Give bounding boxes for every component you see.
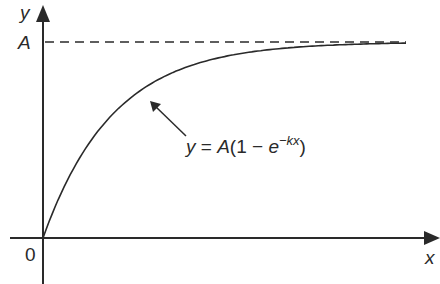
eq-y: y <box>186 136 196 157</box>
annotation-arrow-line <box>154 105 186 136</box>
eq-A: A <box>217 136 230 157</box>
eq-open: (1 − <box>230 136 269 157</box>
y-axis-label: y <box>20 3 30 22</box>
eq-e: e <box>268 136 279 157</box>
asymptote-label: A <box>18 33 31 52</box>
eq-close: ) <box>300 136 306 157</box>
eq-equals: = <box>196 136 218 157</box>
x-axis-arrow-icon <box>424 231 440 245</box>
origin-label: 0 <box>25 245 36 264</box>
equation-label: y = A(1 − e−kx) <box>186 137 306 156</box>
x-axis-label: x <box>425 248 435 267</box>
eq-exponent: −kx <box>279 133 300 148</box>
y-axis-arrow-icon <box>36 5 50 22</box>
